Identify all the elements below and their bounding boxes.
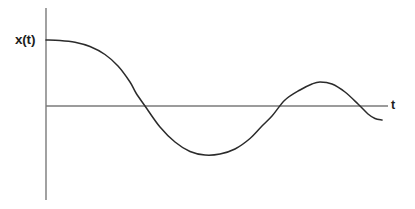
signal-plot-figure: x(t) t: [0, 0, 415, 209]
y-axis-label: x(t): [15, 33, 35, 47]
plot-canvas: [0, 0, 415, 209]
x-axis-label: t: [391, 99, 395, 112]
signal-waveform-curve: [46, 40, 382, 155]
